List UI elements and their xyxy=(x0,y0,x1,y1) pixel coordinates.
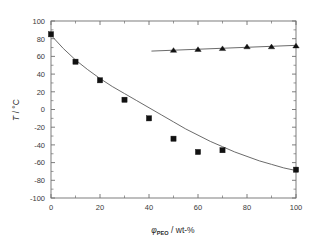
y-tick-label: -20 xyxy=(34,123,45,132)
x-axis-title-subscript: PEO xyxy=(157,230,169,236)
data-point-square xyxy=(220,148,225,153)
y-tick-label: -100 xyxy=(30,194,45,203)
data-point-square xyxy=(73,59,78,64)
y-axis-title: T / °C xyxy=(11,99,21,121)
data-point-square xyxy=(195,149,200,154)
x-tick-label: 40 xyxy=(145,203,153,212)
svg-text:φPEO / wt-%: φPEO / wt-% xyxy=(151,225,195,236)
data-point-square xyxy=(293,167,298,172)
data-point-square xyxy=(171,136,176,141)
data-point-square xyxy=(146,116,151,121)
svg-text:T / °C: T / °C xyxy=(11,99,21,121)
data-point-triangle xyxy=(244,44,250,49)
data-point-square xyxy=(48,32,53,37)
data-series-markers xyxy=(48,32,299,173)
fit-curves xyxy=(51,35,296,170)
fit-curve-square-fit xyxy=(51,35,296,170)
y-tick-label: -80 xyxy=(34,176,45,185)
data-point-square xyxy=(97,78,102,83)
x-tick-label: 100 xyxy=(290,203,303,212)
y-tick-label: 20 xyxy=(37,88,45,97)
y-axis-title-rest: / °C xyxy=(11,99,21,116)
y-tick-label: -40 xyxy=(34,141,45,150)
y-tick-label: 40 xyxy=(37,70,45,79)
chart-canvas: 020406080100 -100-80-60-40-2002040608010… xyxy=(0,0,319,246)
data-point-square xyxy=(122,97,127,102)
y-tick-label: -60 xyxy=(34,158,45,167)
y-tick-label: 80 xyxy=(37,35,45,44)
x-tick-label: 80 xyxy=(243,203,251,212)
y-axis-minor-ticks xyxy=(51,30,296,189)
y-tick-label: 0 xyxy=(41,105,45,114)
x-axis-tick-labels: 020406080100 xyxy=(49,203,302,212)
x-axis-title-rest: / wt-% xyxy=(169,225,195,235)
x-tick-label: 20 xyxy=(96,203,104,212)
chart-figure: 020406080100 -100-80-60-40-2002040608010… xyxy=(0,0,319,246)
y-tick-label: 60 xyxy=(37,52,45,61)
y-tick-label: 100 xyxy=(32,17,45,26)
x-tick-label: 0 xyxy=(49,203,53,212)
x-tick-label: 60 xyxy=(194,203,202,212)
x-axis-title: φPEO / wt-% xyxy=(151,225,195,236)
y-axis-tick-labels: -100-80-60-40-20020406080100 xyxy=(30,17,45,203)
